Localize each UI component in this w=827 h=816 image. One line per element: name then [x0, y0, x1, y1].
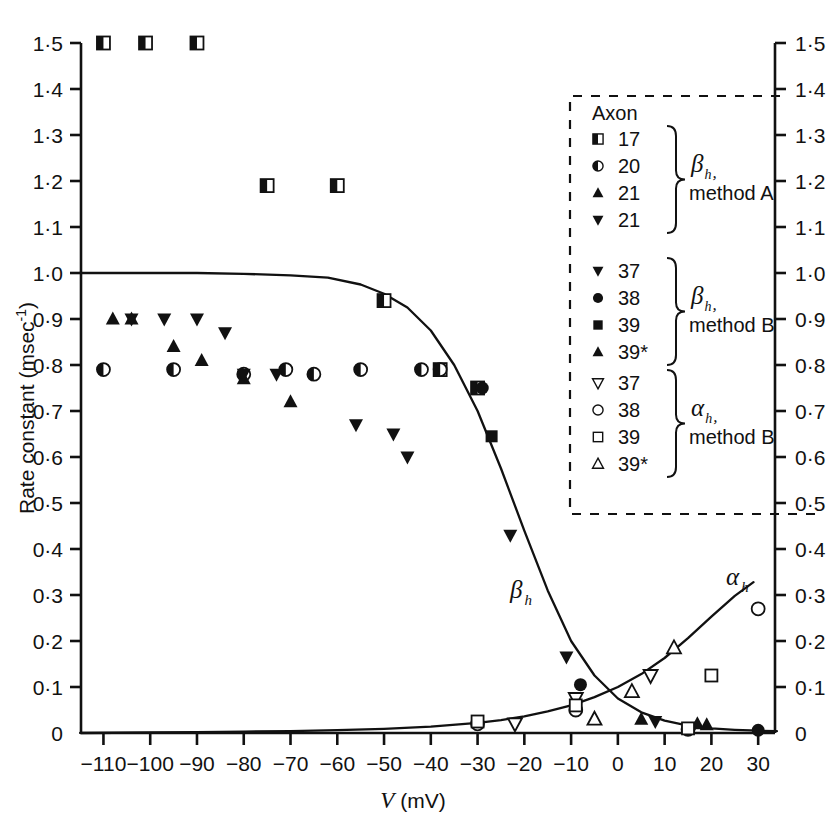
marker-half-square — [378, 294, 385, 307]
y-tick-label-right: 0·6 — [795, 446, 825, 469]
y-tick-label-left: 1·2 — [33, 170, 63, 193]
y-tick-label-right: 0·8 — [795, 354, 825, 377]
y-tick-label-right: 1·4 — [795, 78, 826, 101]
legend-entry-label: 38 — [618, 287, 640, 309]
series-axon-21b-beta-h-method-a — [125, 314, 415, 465]
y-tick-label-left: 0·3 — [33, 584, 63, 607]
svg-text:Rate constant (msec-1): Rate constant (msec-1) — [13, 302, 38, 514]
y-tick-label-left: 0·4 — [33, 538, 64, 561]
marker-open-circle — [593, 405, 603, 415]
legend-entry-label: 38 — [618, 399, 640, 421]
legend-entry-label: 39 — [618, 314, 640, 336]
marker-filled-circle — [574, 678, 587, 691]
legend-entry-label: 21 — [618, 209, 640, 231]
y-tick-label-right: 0·7 — [795, 400, 825, 423]
y-tick-label-left: 1·1 — [33, 216, 63, 239]
curve-beta_h — [80, 273, 777, 731]
legend-entry-label: 20 — [618, 155, 640, 177]
marker-open-triangle-up — [593, 458, 604, 468]
marker-open-square — [705, 670, 717, 682]
marker-filled-triangle-up — [195, 353, 209, 366]
x-tick-label: 10 — [653, 752, 676, 775]
x-tick-label: −20 — [507, 752, 543, 775]
legend-entry-label: 21 — [618, 182, 640, 204]
marker-filled-triangle-up — [700, 717, 714, 730]
curve-label-alpha-h: αh — [726, 563, 749, 595]
axes-layer — [70, 43, 786, 745]
marker-half-square — [139, 37, 146, 50]
x-tick-label: −30 — [460, 752, 496, 775]
y-tick-label-left: 1·3 — [33, 124, 63, 147]
marker-half-square — [593, 134, 598, 144]
curves-layer — [80, 273, 777, 733]
marker-filled-triangle-down — [648, 716, 662, 729]
marker-filled-triangle-up — [593, 346, 604, 356]
y-tick-label-right: 1·3 — [795, 124, 825, 147]
legend-entry-label: 17 — [618, 128, 640, 150]
legend-group-1: 17202121βh,method A — [593, 126, 775, 233]
y-tick-label-right: 1·2 — [795, 170, 825, 193]
y-tick-label-right: 0·5 — [795, 492, 825, 515]
x-tick-label: −100 — [127, 752, 174, 775]
axis-labels-layer: 000·10·10·20·20·30·30·40·40·50·50·60·60·… — [13, 32, 826, 813]
legend-entry-label: 39* — [618, 341, 648, 363]
marker-half-square — [331, 179, 338, 192]
x-tick-label: −110 — [81, 752, 127, 775]
x-tick-label: −10 — [553, 752, 589, 775]
marker-filled-triangle-down — [593, 216, 604, 226]
legend-brace — [667, 370, 685, 477]
x-tick-label: 30 — [746, 752, 769, 775]
legend-group-method: method A — [689, 182, 774, 204]
marker-filled-square — [486, 430, 498, 442]
x-tick-label: 0 — [612, 752, 624, 775]
legend-entry-label: 39 — [618, 426, 640, 448]
marker-open-square — [570, 699, 582, 711]
marker-filled-triangle-down — [386, 429, 400, 442]
marker-filled-triangle-down — [157, 314, 171, 327]
marker-open-square — [682, 722, 694, 734]
y-tick-label-left: 0·1 — [33, 676, 63, 699]
marker-filled-square — [593, 320, 602, 329]
legend-entry-label: 39* — [618, 453, 648, 475]
y-tick-label-left: 1·4 — [33, 78, 64, 101]
marker-half-square — [97, 37, 104, 50]
series-axon-39-beta-h-method-b — [486, 430, 498, 442]
legend-group-3: 37383939*αh,method B — [593, 370, 775, 477]
legend-header: Axon — [592, 102, 638, 124]
y-tick-label-right: 0 — [795, 722, 807, 745]
y-tick-label-right: 1·5 — [795, 32, 825, 55]
marker-filled-circle — [593, 293, 603, 303]
x-tick-label: −80 — [226, 752, 262, 775]
legend-entry-label: 37 — [618, 260, 640, 282]
marker-open-triangle-down — [593, 379, 604, 389]
y-tick-label-right: 0·4 — [795, 538, 826, 561]
legend-entry-label: 37 — [618, 372, 640, 394]
legend-brace — [667, 126, 685, 233]
marker-filled-triangle-down — [400, 452, 414, 465]
y-tick-label-left: 1·0 — [33, 262, 63, 285]
x-tick-label: −90 — [179, 752, 215, 775]
marker-half-square — [190, 37, 197, 50]
curve-alpha_h — [80, 582, 753, 733]
y-tick-label-right: 0·9 — [795, 308, 825, 331]
figure-container: 000·10·10·20·20·30·30·40·40·50·50·60·60·… — [0, 0, 827, 816]
y-axis-title: Rate constant (msec-1) — [13, 302, 38, 514]
legend-group-2: 37383939*βh,method B — [593, 258, 775, 365]
legend-group-method: method B — [689, 426, 775, 448]
marker-open-triangle-down — [644, 670, 658, 683]
series-axon-21a-beta-h-method-a — [106, 312, 298, 408]
marker-open-circle — [752, 602, 765, 615]
x-tick-label: −70 — [273, 752, 309, 775]
series-axon-37-beta-h-method-b — [503, 530, 699, 735]
legend-group-symbol: αh, — [691, 394, 717, 426]
y-tick-label-right: 0·1 — [795, 676, 825, 699]
legend-box: Axon17202121βh,method A37383939*βh,metho… — [570, 96, 816, 514]
marker-filled-triangle-down — [218, 327, 232, 340]
rate-constant-plot: 000·10·10·20·20·30·30·40·40·50·50·60·60·… — [0, 0, 827, 816]
y-tick-label-left: 0·2 — [33, 630, 63, 653]
marker-filled-triangle-down — [559, 652, 573, 665]
marker-filled-triangle-down — [125, 314, 139, 327]
legend-group-method: method B — [689, 314, 775, 336]
y-tick-label-right: 0·2 — [795, 630, 825, 653]
marker-open-square — [472, 716, 484, 728]
